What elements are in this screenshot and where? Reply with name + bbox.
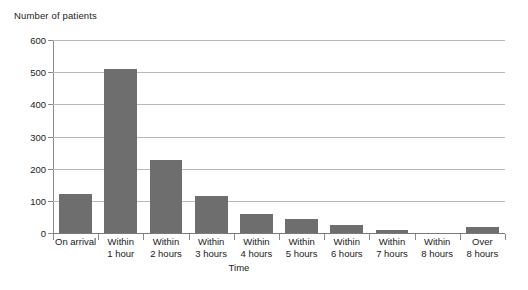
x-axis-tick-mark — [143, 234, 144, 240]
bar — [240, 214, 273, 233]
y-axis-tick-label: 400 — [30, 99, 46, 110]
y-axis-tick-label: 300 — [30, 131, 46, 142]
x-axis-tick-mark — [189, 234, 190, 240]
x-axis-tick-mark — [324, 234, 325, 240]
x-axis-tick-mark — [369, 234, 370, 240]
y-axis-tick-label: 100 — [30, 195, 46, 206]
x-axis-category-label: Over 8 hours — [460, 236, 505, 259]
x-axis-category-label: Within 1 hour — [98, 236, 143, 259]
bars-group — [53, 40, 505, 233]
y-axis-tick-label: 500 — [30, 67, 46, 78]
bar — [104, 69, 137, 233]
bar — [59, 194, 92, 233]
bar-chart: Number of patients 0100200300400500600 O… — [0, 0, 528, 290]
x-axis-category-label: On arrival — [53, 236, 98, 248]
x-axis-tick-mark — [415, 234, 416, 240]
x-axis-category-label: Within 6 hours — [324, 236, 369, 259]
x-axis-tick-mark — [98, 234, 99, 240]
x-axis-category-label: Within 2 hours — [143, 236, 188, 259]
y-axis-tick-group: 0100200300400500600 — [0, 0, 46, 290]
bar — [195, 196, 228, 233]
x-axis-category-label: Within 4 hours — [234, 236, 279, 259]
x-axis-tick-mark — [53, 234, 54, 240]
x-axis-category-label: Within 3 hours — [189, 236, 234, 259]
y-axis-tick-label: 600 — [30, 35, 46, 46]
bar — [150, 160, 183, 233]
bar — [466, 227, 499, 233]
x-axis-tick-mark — [505, 234, 506, 240]
bar — [285, 219, 318, 233]
y-axis-tick-label: 200 — [30, 163, 46, 174]
x-axis-tick-mark — [234, 234, 235, 240]
x-axis-tick-mark — [460, 234, 461, 240]
x-axis-category-label: Within 8 hours — [415, 236, 460, 259]
x-axis-category-group: On arrivalWithin 1 hourWithin 2 hoursWit… — [53, 234, 505, 268]
bar — [330, 225, 363, 233]
x-axis-category-label: Within 5 hours — [279, 236, 324, 259]
x-axis-category-label: Within 7 hours — [369, 236, 414, 259]
bar — [376, 230, 409, 233]
x-axis-tick-mark — [279, 234, 280, 240]
y-axis-tick-label: 0 — [41, 228, 46, 239]
x-axis-title: Time — [229, 262, 250, 273]
